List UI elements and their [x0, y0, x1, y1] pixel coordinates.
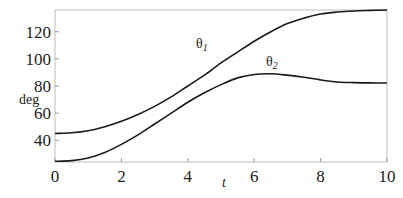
y-tick-label: 40 — [34, 131, 51, 150]
y-tick-label: 120 — [26, 23, 52, 42]
curves — [55, 10, 387, 161]
x-tick-label: 8 — [316, 167, 325, 186]
y-axis: 406080100120 — [26, 23, 60, 151]
x-tick-label: 10 — [379, 167, 396, 186]
series-theta1-line — [55, 10, 387, 134]
plot-frame — [55, 10, 387, 162]
x-axis-label: t — [222, 175, 227, 190]
y-tick-label: 100 — [26, 50, 52, 69]
theta2-label: θ2 — [266, 54, 278, 71]
y-axis-label: deg — [19, 92, 39, 107]
x-tick-label: 2 — [117, 167, 126, 186]
line-chart: 406080100120 0246810 deg t θ1 θ2 — [0, 0, 403, 198]
series-theta2-line — [55, 74, 387, 162]
x-tick-label: 0 — [51, 167, 60, 186]
theta1-label: θ1 — [196, 36, 208, 53]
x-tick-label: 4 — [184, 167, 193, 186]
x-tick-label: 6 — [250, 167, 259, 186]
